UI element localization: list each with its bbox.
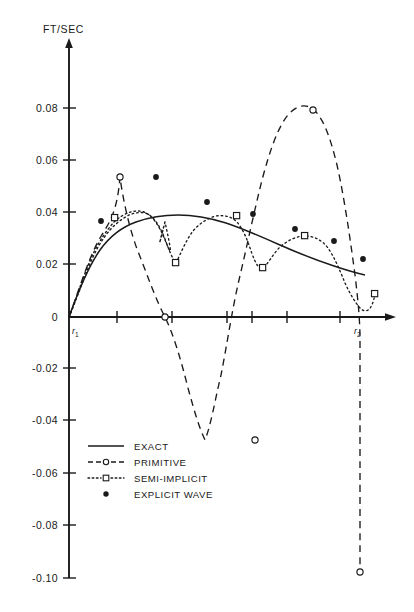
legend-label: EXPLICIT WAVE — [134, 489, 213, 500]
data-point-marker — [98, 218, 104, 224]
y-tick-label-zero: 0 — [52, 311, 58, 323]
legend-label: PRIMITIVE — [134, 457, 186, 468]
y-tick-label: -0.10 — [32, 572, 58, 584]
data-point-marker — [153, 174, 159, 180]
y-axis-arrow-icon — [65, 38, 73, 48]
data-point-marker — [260, 265, 266, 271]
legend-label: EXACT — [134, 441, 169, 452]
y-tick-label: 0.04 — [36, 206, 58, 218]
legend-label: SEMI-IMPLICIT — [134, 473, 208, 484]
data-point-marker — [173, 260, 179, 266]
x-axis-left-endpoint-label: r1 — [72, 326, 79, 338]
x-axis-arrow-icon — [385, 313, 396, 321]
data-point-marker — [234, 213, 240, 219]
r1-subscript: 1 — [75, 331, 79, 338]
y-tick-label: -0.08 — [32, 519, 58, 531]
series-semi-implicit-curve — [69, 211, 170, 317]
legend: EXACT PRIMITIVE SEMI-IMPLICIT EXPLICIT W… — [88, 441, 213, 500]
data-point-marker — [331, 238, 337, 244]
y-tick-label: 0.06 — [36, 154, 58, 166]
legend-swatch-open-square-icon — [103, 475, 109, 481]
data-point-marker — [250, 211, 256, 217]
figure-container: FT/SEC 0.08 0.06 0.04 0.02 0 -0.02 -0.0 — [0, 0, 414, 612]
legend-item-exact: EXACT — [88, 441, 169, 452]
data-point-marker — [372, 291, 378, 297]
legend-item-semi-implicit: SEMI-IMPLICIT — [88, 473, 208, 484]
data-point-marker — [360, 256, 366, 262]
data-point-marker — [162, 314, 168, 320]
series-primitive-curve — [69, 106, 360, 572]
series-exact-curve — [69, 215, 365, 317]
data-point-marker — [204, 199, 210, 205]
legend-swatch-filled-dot-icon — [103, 491, 108, 496]
plot-curves — [69, 106, 375, 572]
data-point-marker — [302, 233, 308, 239]
data-point-marker — [252, 437, 258, 443]
data-point-marker — [292, 226, 298, 232]
legend-swatch-open-circle-icon — [103, 459, 108, 464]
data-point-marker — [117, 174, 123, 180]
data-point-marker — [357, 569, 363, 575]
y-tick-label: -0.02 — [32, 362, 58, 374]
y-tick-label: 0.02 — [36, 258, 58, 270]
y-tick-label: 0.08 — [36, 102, 58, 114]
y-axis-title: FT/SEC — [43, 23, 84, 35]
chart-svg: FT/SEC 0.08 0.06 0.04 0.02 0 -0.02 -0.0 — [0, 0, 414, 612]
legend-item-explicit-wave: EXPLICIT WAVE — [103, 489, 213, 500]
y-tick-label: -0.06 — [32, 467, 58, 479]
data-point-marker — [112, 215, 118, 221]
legend-item-primitive: PRIMITIVE — [88, 457, 186, 468]
y-tick-label: -0.04 — [32, 414, 58, 426]
data-point-marker — [310, 107, 316, 113]
